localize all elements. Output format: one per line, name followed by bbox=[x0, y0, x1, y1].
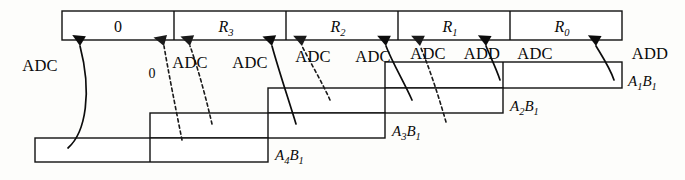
op-label-add-9: ADD bbox=[632, 44, 668, 63]
accumulation-diagram: 0 R3 R2 R1 R0 A1B1 A2B1 A3B1 A4B1 bbox=[0, 0, 685, 180]
op-label-adc-2: ADC bbox=[172, 53, 207, 72]
op-label-adc-6: ADC bbox=[410, 44, 445, 63]
op-label-adc-1: ADC bbox=[22, 56, 57, 75]
op-label-adc-8: ADC bbox=[517, 44, 552, 63]
row-label-a3b1: A3B1 bbox=[391, 123, 421, 142]
op-label-adc-5: ADC bbox=[355, 47, 390, 66]
arrow-adc-1 bbox=[68, 46, 86, 148]
op-label-adc-4: ADC bbox=[295, 47, 330, 66]
row-label-a2b1: A2B1 bbox=[509, 98, 539, 117]
row-label-a1b1: A1B1 bbox=[627, 73, 657, 92]
op-label-adc-3: ADC bbox=[232, 53, 267, 72]
result-register: 0 R3 R2 R1 R0 bbox=[62, 11, 622, 40]
register-cell-0-label: 0 bbox=[114, 18, 122, 35]
partial-product-row-a4b1 bbox=[35, 138, 268, 162]
diagram-canvas: 0 R3 R2 R1 R0 A1B1 A2B1 A3B1 A4B1 bbox=[0, 0, 685, 180]
row-label-a4b1: A4B1 bbox=[274, 147, 304, 166]
op-label-add-7: ADD bbox=[464, 44, 500, 63]
carry-in-zero-label: 0 bbox=[149, 66, 156, 81]
